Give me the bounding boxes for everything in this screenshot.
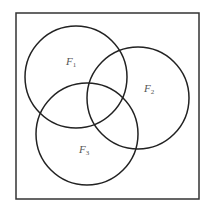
universe-frame bbox=[16, 13, 199, 199]
venn-diagram: F1 F2 F3 bbox=[0, 0, 209, 213]
set-f1-label: F1 bbox=[65, 55, 77, 69]
set-f2-label: F2 bbox=[143, 82, 155, 96]
set-f3-label: F3 bbox=[78, 143, 90, 157]
